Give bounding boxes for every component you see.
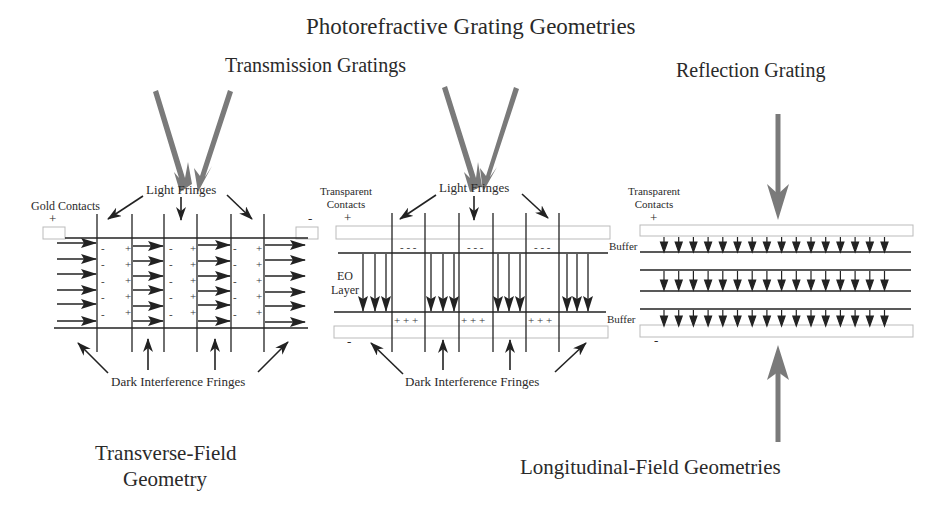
middle-light-fringes-label: Light Fringes xyxy=(439,181,509,194)
middle-dark-fringes-label: Dark Interference Fringes xyxy=(405,375,539,388)
reflection-panel xyxy=(640,225,913,337)
svg-text:+: + xyxy=(190,290,196,302)
longitudinal-caption: Longitudinal-Field Geometries xyxy=(520,454,781,480)
svg-text:-: - xyxy=(233,308,237,320)
svg-text:+: + xyxy=(190,306,196,318)
svg-text:+: + xyxy=(256,290,262,302)
eo-label-line2: Layer xyxy=(325,284,365,298)
middle-contacts-line1: Transparent xyxy=(316,185,376,198)
diagram-canvas: ----- +++++ ----- +++++ ----- +++++ xyxy=(0,0,945,514)
transverse-caption-line1: Transverse-Field xyxy=(95,440,235,466)
middle-plus-label: + xyxy=(344,211,351,224)
svg-text:+: + xyxy=(125,274,131,286)
svg-text:+: + xyxy=(190,242,196,254)
svg-text:+: + xyxy=(256,306,262,318)
right-minus-label: - xyxy=(654,334,658,347)
svg-text:-: - xyxy=(233,258,237,270)
beam-arrow-reflection-down xyxy=(767,114,789,220)
svg-text:+: + xyxy=(256,258,262,270)
middle-contacts-line2: Contacts xyxy=(316,198,376,211)
eo-label-line1: EO xyxy=(325,270,365,284)
svg-text:-: - xyxy=(233,242,237,254)
svg-text:-: - xyxy=(101,258,105,270)
buffer-top-label: Buffer xyxy=(609,241,638,252)
beam-arrows-middle xyxy=(442,86,519,192)
left-minus-label: - xyxy=(308,212,312,225)
beam-arrows-left xyxy=(153,90,233,192)
svg-text:-: - xyxy=(101,308,105,320)
svg-text:+: + xyxy=(190,258,196,270)
left-light-fringes-label: Light Fringes xyxy=(146,183,216,196)
right-contacts-line1: Transparent xyxy=(624,185,684,198)
svg-text:-: - xyxy=(169,258,173,270)
transverse-caption-line2: Geometry xyxy=(95,466,235,492)
svg-text:+: + xyxy=(125,242,131,254)
svg-text:- - -: - - - xyxy=(467,241,484,253)
svg-text:+: + xyxy=(125,306,131,318)
svg-text:-: - xyxy=(169,275,173,287)
right-contacts-line2: Contacts xyxy=(624,198,684,211)
longitudinal-transmission-panel: - - - - - - - - - + + + + + + + + + xyxy=(334,194,610,374)
eo-layer-label: EO Layer xyxy=(325,270,365,298)
buffer-bottom-label: Buffer xyxy=(607,314,636,325)
svg-text:-: - xyxy=(169,242,173,254)
middle-contacts-label: Transparent Contacts xyxy=(316,185,376,210)
svg-text:- - -: - - - xyxy=(534,241,551,253)
svg-text:+: + xyxy=(125,290,131,302)
svg-text:-: - xyxy=(233,291,237,303)
left-plus-label: + xyxy=(49,212,56,225)
svg-text:+ + +: + + + xyxy=(528,314,552,326)
svg-text:+ + +: + + + xyxy=(461,314,485,326)
svg-text:+: + xyxy=(190,274,196,286)
svg-text:-: - xyxy=(101,242,105,254)
svg-text:-: - xyxy=(233,275,237,287)
svg-text:- - -: - - - xyxy=(400,241,417,253)
svg-text:+: + xyxy=(256,274,262,286)
transverse-panel: ----- +++++ ----- +++++ ----- +++++ xyxy=(43,195,318,373)
svg-text:+: + xyxy=(125,258,131,270)
svg-text:+ + +: + + + xyxy=(394,314,418,326)
svg-text:-: - xyxy=(101,275,105,287)
transverse-caption: Transverse-Field Geometry xyxy=(95,440,235,493)
left-dark-fringes-label: Dark Interference Fringes xyxy=(111,375,245,388)
svg-text:-: - xyxy=(101,291,105,303)
svg-text:-: - xyxy=(169,291,173,303)
beam-arrow-reflection-up xyxy=(767,345,789,442)
svg-text:+: + xyxy=(256,242,262,254)
svg-text:-: - xyxy=(169,308,173,320)
right-contacts-label: Transparent Contacts xyxy=(624,185,684,210)
gold-contacts-label: Gold Contacts xyxy=(31,200,100,212)
right-plus-label: + xyxy=(650,211,657,224)
middle-minus-label: - xyxy=(347,335,351,348)
